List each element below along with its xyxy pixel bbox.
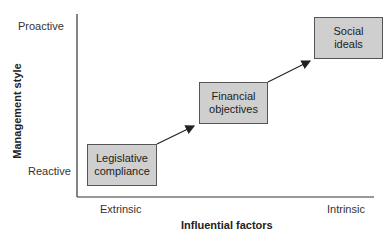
box-social-ideals: Social ideals [314, 17, 383, 59]
x-axis-title: Influential factors [181, 219, 273, 231]
y-tick-proactive: Proactive [18, 20, 64, 32]
y-axis-title: Management style [11, 56, 23, 166]
arrow-1 [157, 126, 194, 144]
x-tick-intrinsic: Intrinsic [327, 203, 365, 215]
y-tick-reactive: Reactive [28, 165, 71, 177]
x-tick-extrinsic: Extrinsic [100, 203, 142, 215]
box-legislative-compliance: Legislative compliance [87, 144, 157, 186]
box-financial-objectives: Financial objectives [199, 82, 268, 124]
arrow-2 [268, 61, 310, 82]
